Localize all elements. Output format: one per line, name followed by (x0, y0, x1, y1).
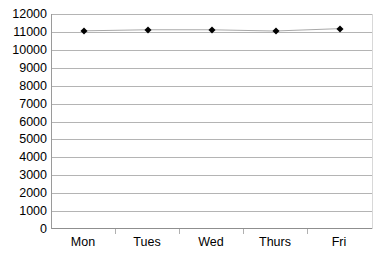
y-axis-tick-label: 0 (0, 223, 47, 236)
y-axis-tick-label: 1000 (0, 205, 47, 218)
y-axis-tick-label: 4000 (0, 151, 47, 164)
x-axis-tick (179, 229, 180, 234)
y-axis-tick-label: 10000 (0, 44, 47, 57)
y-axis: 0100020003000400050006000700080009000100… (0, 14, 47, 229)
x-axis-tick-label: Mon (71, 236, 95, 249)
x-axis-ticks (51, 229, 373, 234)
y-axis-tick-label: 9000 (0, 62, 47, 75)
x-axis-tick (243, 229, 244, 234)
x-axis-tick-label: Wed (198, 236, 223, 249)
y-axis-tick-label: 12000 (0, 8, 47, 21)
gridline (52, 86, 372, 87)
y-axis-tick-label: 7000 (0, 97, 47, 110)
line-chart: 0100020003000400050006000700080009000100… (0, 0, 381, 266)
x-axis: MonTuesWedThursFri (51, 236, 373, 254)
gridline (52, 175, 372, 176)
gridline (52, 68, 372, 69)
y-axis-tick-label: 3000 (0, 169, 47, 182)
gridline (52, 50, 372, 51)
x-axis-tick (115, 229, 116, 234)
y-axis-tick-label: 2000 (0, 187, 47, 200)
gridline (52, 211, 372, 212)
gridline (52, 104, 372, 105)
gridline (52, 157, 372, 158)
gridline (52, 14, 372, 15)
x-axis-tick-label: Tues (133, 236, 160, 249)
plot-area (51, 14, 373, 229)
x-axis-tick (307, 229, 308, 234)
y-axis-tick-label: 5000 (0, 133, 47, 146)
gridline (52, 122, 372, 123)
y-axis-tick-label: 8000 (0, 79, 47, 92)
x-axis-tick-label: Thurs (259, 236, 291, 249)
y-axis-tick-label: 11000 (0, 26, 47, 39)
gridline (52, 139, 372, 140)
x-axis-tick-label: Fri (332, 236, 347, 249)
y-axis-tick-label: 6000 (0, 115, 47, 128)
gridline (52, 193, 372, 194)
